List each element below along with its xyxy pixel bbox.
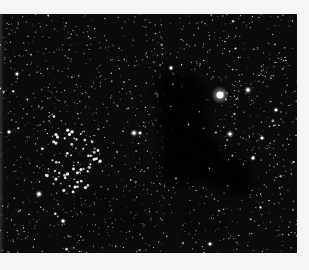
scan-edge-strip — [0, 14, 4, 253]
page-canvas — [0, 0, 309, 270]
astronomy-photo — [0, 14, 297, 253]
starfield-image — [0, 14, 297, 253]
